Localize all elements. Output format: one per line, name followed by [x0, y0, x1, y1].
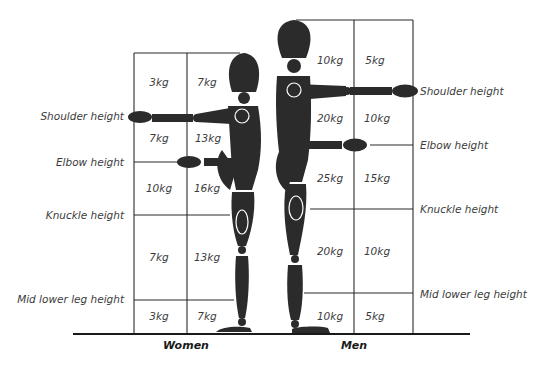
men-zone2-close: 20kg	[317, 112, 343, 124]
men-zone5-far: 5kg	[365, 310, 385, 322]
women-zone5-close: 3kg	[149, 310, 169, 322]
women-knuckle-height-label: Knuckle height	[46, 209, 125, 221]
men-zone1-close: 10kg	[317, 54, 343, 66]
men-zone5-close: 10kg	[317, 310, 343, 322]
man-figure	[276, 20, 418, 333]
lifting-guidelines-diagram: Shoulder height Elbow height Knuckle hei…	[0, 0, 540, 369]
women-zone1-close: 3kg	[149, 76, 169, 88]
men-knuckle-height-label: Knuckle height	[420, 203, 499, 215]
men-zone3-close: 25kg	[317, 172, 343, 184]
women-zone4-far: 13kg	[194, 251, 220, 263]
women-zone2-close: 7kg	[149, 132, 169, 144]
women-zone3-close: 10kg	[146, 182, 172, 194]
women-zone1-far: 7kg	[197, 76, 217, 88]
women-zone2-far: 13kg	[195, 132, 221, 144]
women-mid-lower-leg-height-label: Mid lower leg height	[17, 293, 125, 305]
women-zone5-far: 7kg	[197, 310, 217, 322]
women-shoulder-height-label: Shoulder height	[40, 110, 124, 122]
men-zone1-far: 5kg	[365, 54, 385, 66]
men-group-label: Men	[341, 339, 367, 352]
men-zone4-close: 20kg	[317, 245, 343, 257]
men-mid-lower-leg-height-label: Mid lower leg height	[420, 288, 528, 300]
men-elbow-height-label: Elbow height	[420, 139, 489, 151]
women-zone4-close: 7kg	[149, 251, 169, 263]
men-grid	[296, 20, 413, 334]
women-elbow-height-label: Elbow height	[56, 156, 125, 168]
men-shoulder-height-label: Shoulder height	[420, 85, 504, 97]
women-group-label: Women	[163, 339, 209, 352]
women-zone3-far: 16kg	[194, 182, 220, 194]
men-zone4-far: 10kg	[364, 245, 390, 257]
men-zone2-far: 10kg	[364, 112, 390, 124]
men-zone3-far: 15kg	[364, 172, 390, 184]
